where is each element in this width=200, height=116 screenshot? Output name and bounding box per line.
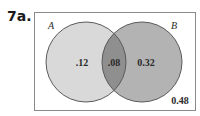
set-b-label: B [171, 20, 177, 31]
set-a-label: A [47, 20, 55, 31]
outside-value: 0.48 [171, 95, 189, 106]
set-a-only-value: .12 [76, 57, 89, 68]
set-b-only-value: 0.32 [137, 57, 155, 68]
venn-diagram: A B .12 .08 0.32 0.48 [0, 0, 200, 116]
intersection-value: .08 [108, 57, 121, 68]
